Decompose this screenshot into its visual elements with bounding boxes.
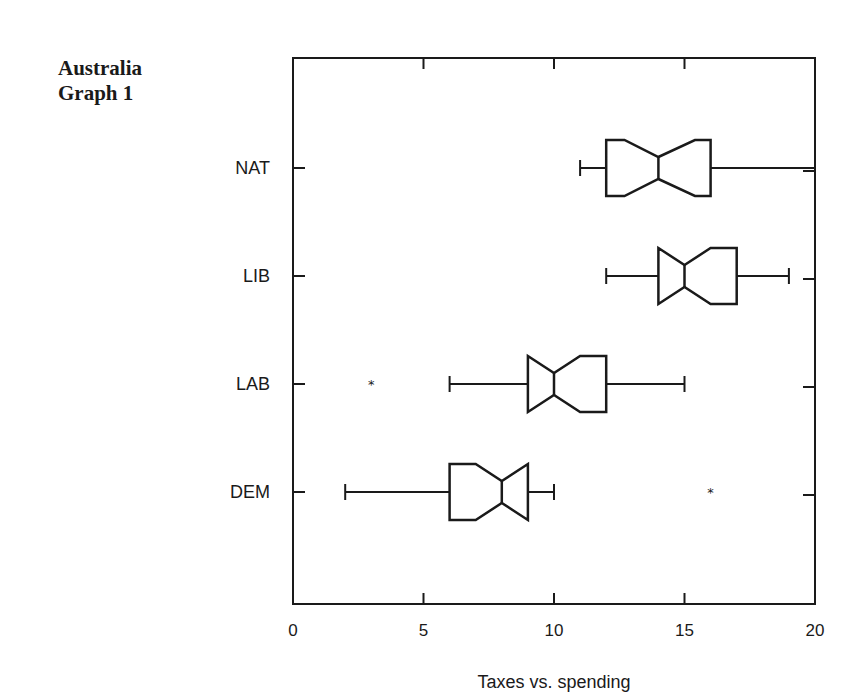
x-tick-label: 0 (288, 621, 297, 640)
x-axis-label: Taxes vs. spending (477, 672, 630, 692)
plot-frame (293, 58, 815, 604)
x-tick-label: 20 (806, 621, 825, 640)
category-label-dem: DEM (230, 482, 270, 502)
category-label-lib: LIB (243, 266, 270, 286)
x-tick-label: 10 (545, 621, 564, 640)
notched-box (450, 464, 528, 520)
outlier-marker: * (707, 485, 714, 500)
axis-ticks (293, 58, 815, 604)
notched-box (528, 356, 606, 412)
axis-labels: 05101520NATLIBLABDEMTaxes vs. spending (230, 158, 824, 692)
box-series: ** (345, 140, 815, 520)
box-nat (580, 140, 815, 196)
outlier-marker: * (368, 377, 375, 392)
box-lib (606, 248, 789, 304)
notched-box (658, 248, 736, 304)
x-tick-label: 15 (675, 621, 694, 640)
box-lab: * (368, 356, 684, 412)
category-label-nat: NAT (235, 158, 270, 178)
plot-border (293, 58, 815, 604)
boxplot-chart: ** 05101520NATLIBLABDEMTaxes vs. spendin… (0, 0, 865, 696)
x-tick-label: 5 (419, 621, 428, 640)
category-label-lab: LAB (236, 374, 270, 394)
box-dem: * (345, 464, 714, 520)
